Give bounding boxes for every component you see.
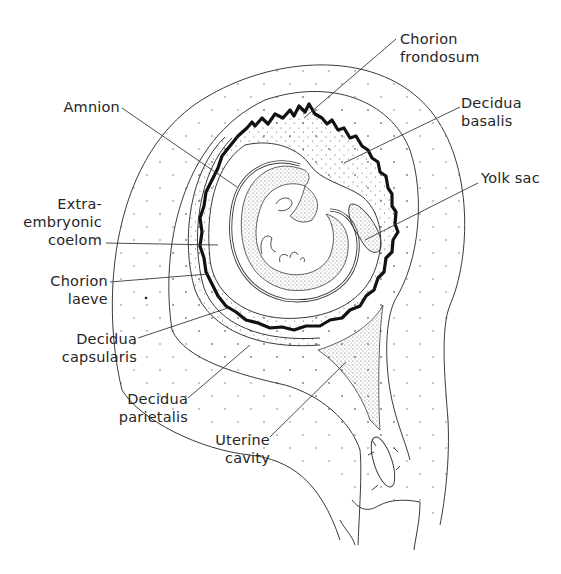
label-line: coelom xyxy=(23,231,102,249)
label-chorion-frondosum: Chorion frondosum xyxy=(400,30,480,66)
label-line: embryonic xyxy=(23,213,102,231)
label-line: parietalis xyxy=(119,408,188,426)
label-uterine-cavity: Uterine cavity xyxy=(215,431,270,467)
label-line: Yolk sac xyxy=(481,169,540,187)
label-line: laeve xyxy=(50,290,108,308)
label-line: Uterine xyxy=(215,431,270,449)
label-amnion: Amnion xyxy=(63,98,120,116)
label-chorion-laeve: Chorion laeve xyxy=(50,272,108,308)
label-yolk-sac: Yolk sac xyxy=(481,169,540,187)
label-line: Extra- xyxy=(23,195,102,213)
label-line: Decidua xyxy=(119,390,188,408)
label-line: frondosum xyxy=(400,48,480,66)
label-decidua-parietalis: Decidua parietalis xyxy=(119,390,188,426)
label-line: Decidua xyxy=(461,94,522,112)
label-extraembryonic-coelom: Extra- embryonic coelom xyxy=(23,195,102,249)
label-line: Decidua xyxy=(62,330,137,348)
stray-mark xyxy=(145,297,148,300)
label-line: Chorion xyxy=(400,30,480,48)
label-line: Chorion xyxy=(50,272,108,290)
label-line: capsularis xyxy=(62,348,137,366)
label-decidua-capsularis: Decidua capsularis xyxy=(62,330,137,366)
label-line: cavity xyxy=(215,449,270,467)
label-line: Amnion xyxy=(63,98,120,116)
label-decidua-basalis: Decidua basalis xyxy=(461,94,522,130)
label-line: basalis xyxy=(461,112,522,130)
